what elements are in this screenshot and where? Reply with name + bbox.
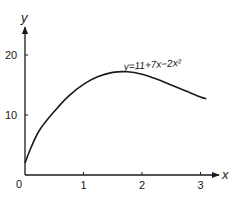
x-tick-label: 2 [139, 179, 145, 191]
chart: x y 0 1231020 y=11+7x−2x² [0, 0, 236, 205]
x-tick-label: 3 [198, 179, 204, 191]
y-tick-label: 10 [5, 109, 17, 121]
series-line [25, 72, 206, 163]
curve-annotation: y=11+7x−2x² [122, 57, 182, 72]
x-tick-label: 1 [81, 179, 87, 191]
y-axis-label: y [20, 10, 29, 25]
origin-label: 0 [16, 178, 22, 190]
x-axis-label: x [221, 167, 229, 182]
y-tick-label: 20 [5, 49, 17, 61]
